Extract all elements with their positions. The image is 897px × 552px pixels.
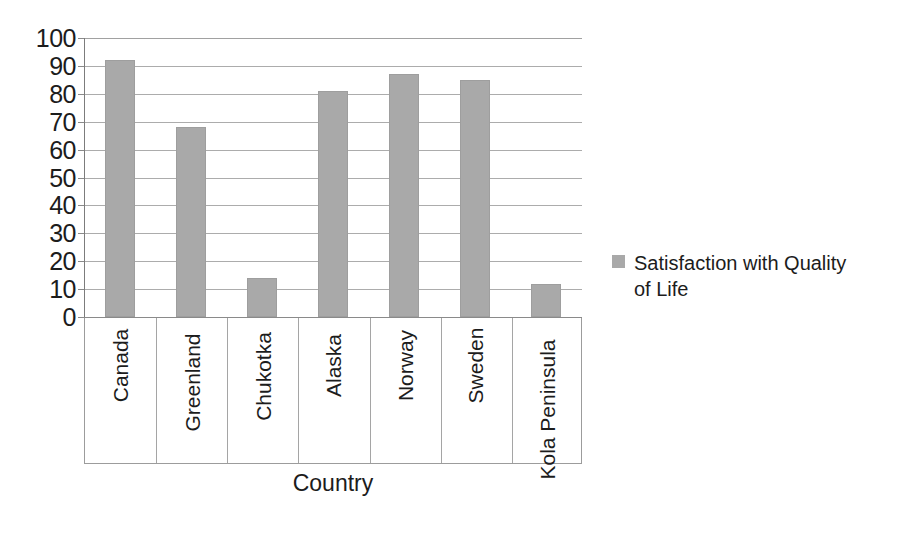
bar <box>389 74 419 317</box>
y-axis-tick-label: 40 <box>14 193 76 218</box>
category-cell: Norway <box>370 318 441 464</box>
bar <box>176 127 206 317</box>
category-cell: Alaska <box>298 318 369 464</box>
y-axis-tick-label: 20 <box>14 249 76 274</box>
y-axis-tick-label: 70 <box>14 110 76 135</box>
category-label: Kola Peninsula <box>537 339 558 479</box>
chart-legend: Satisfaction with Quality of Life <box>612 250 882 302</box>
y-axis-tick-label: 80 <box>14 82 76 107</box>
category-cell: Greenland <box>156 318 227 464</box>
category-label: Norway <box>395 330 416 401</box>
category-label: Sweden <box>466 328 487 404</box>
plot-area <box>84 38 582 317</box>
y-axis-tick-label: 100 <box>14 26 76 51</box>
y-axis-tick-label: 50 <box>14 166 76 191</box>
y-axis-tick-label: 30 <box>14 221 76 246</box>
category-cell: Kola Peninsula <box>512 318 583 464</box>
category-label: Chukotka <box>252 332 273 421</box>
bar <box>531 284 561 317</box>
x-axis-title: Country <box>84 470 582 496</box>
category-cell: Sweden <box>441 318 512 464</box>
category-cell: Canada <box>85 318 156 464</box>
bar <box>318 91 348 317</box>
legend-label: Satisfaction with Quality of Life <box>634 250 864 302</box>
bar-chart: 1009080706050403020100 CanadaGreenlandCh… <box>0 0 897 552</box>
legend-swatch-icon <box>612 255 625 268</box>
category-label: Alaska <box>323 334 344 397</box>
y-axis-tick-label: 10 <box>14 277 76 302</box>
y-axis-tick-labels: 1009080706050403020100 <box>14 24 76 320</box>
category-label-band: CanadaGreenlandChukotkaAlaskaNorwaySwede… <box>84 318 582 464</box>
category-label: Greenland <box>181 333 202 431</box>
y-axis-tick-label: 90 <box>14 54 76 79</box>
bar <box>247 278 277 317</box>
bars-layer <box>84 38 582 317</box>
category-label: Canada <box>110 329 131 403</box>
y-axis-tick-label: 0 <box>14 305 76 330</box>
bar <box>105 60 135 317</box>
category-cell: Chukotka <box>227 318 298 464</box>
bar <box>460 80 490 317</box>
y-axis-tick-label: 60 <box>14 138 76 163</box>
